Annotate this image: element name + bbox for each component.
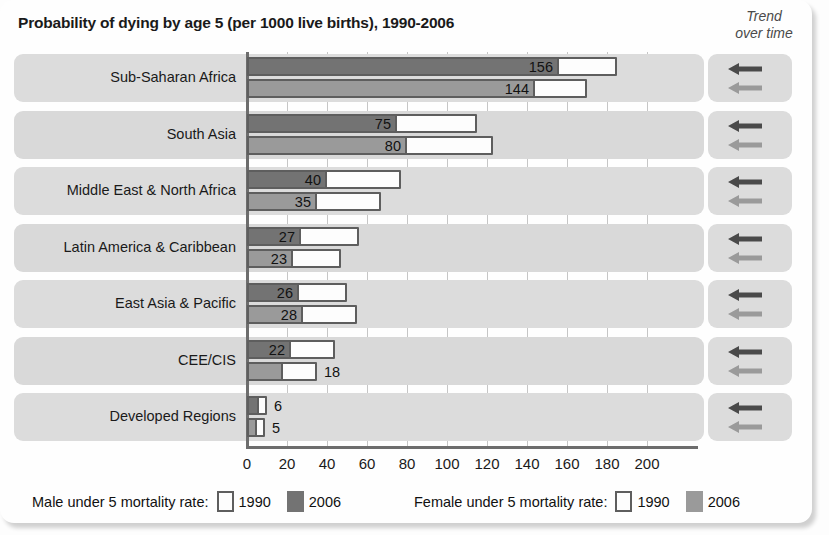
trend-row-band xyxy=(708,54,792,102)
bar-group-female xyxy=(247,136,493,155)
x-tick-label: 140 xyxy=(507,455,547,472)
bar-female-2006 xyxy=(247,362,283,381)
legend-female-1990-year: 1990 xyxy=(637,494,669,510)
legend-swatch-female-2006 xyxy=(686,491,703,512)
chart-title: Probability of dying by age 5 (per 1000 … xyxy=(18,14,454,32)
x-axis-line xyxy=(246,446,698,449)
legend-swatch-male-2006 xyxy=(287,491,304,512)
bar-value-male: 27 xyxy=(279,230,295,245)
trend-row-band xyxy=(708,393,792,441)
x-tick-label: 80 xyxy=(387,455,427,472)
trend-header-line2: over time xyxy=(718,25,810,42)
bar-group-male xyxy=(247,340,335,359)
legend-male-1990-year: 1990 xyxy=(239,494,271,510)
bar-group-male xyxy=(247,227,359,246)
row-label-middle-east-north-africa: Middle East & North Africa xyxy=(14,182,236,198)
bar-value-male: 6 xyxy=(274,399,282,414)
bar-group-male xyxy=(247,170,401,189)
x-tick-label: 60 xyxy=(347,455,387,472)
bar-value-male: 75 xyxy=(375,117,391,132)
bar-group-male xyxy=(247,114,477,133)
bar-group-female xyxy=(247,192,381,211)
bar-value-female: 35 xyxy=(295,195,311,210)
row-label-sub-saharan-africa: Sub-Saharan Africa xyxy=(14,69,236,85)
bar-value-male: 22 xyxy=(269,343,285,358)
bar-group-female xyxy=(247,362,317,381)
row-label-cee-cis: CEE/CIS xyxy=(14,352,236,368)
trend-row-band xyxy=(708,337,792,385)
bar-group-female xyxy=(247,418,265,437)
bar-group-female xyxy=(247,305,357,324)
bar-value-female: 5 xyxy=(272,421,280,436)
legend-male-2006-year: 2006 xyxy=(309,494,341,510)
x-tick-label: 160 xyxy=(547,455,587,472)
x-tick-label: 200 xyxy=(627,455,667,472)
trend-arrow-left-female-icon xyxy=(728,195,762,207)
trend-over-time-header: Trend over time xyxy=(718,8,810,42)
legend-female-label: Female under 5 mortality rate: xyxy=(414,494,607,510)
legend-female-group: Female under 5 mortality rate: 1990 2006 xyxy=(414,491,756,512)
bar-group-female xyxy=(247,249,341,268)
x-tick-label: 40 xyxy=(307,455,347,472)
bar-group-female xyxy=(247,79,587,98)
bar-group-male xyxy=(247,283,347,302)
x-tick-label: 0 xyxy=(227,455,267,472)
trend-row-band xyxy=(708,167,792,215)
trend-arrow-left-male-icon xyxy=(728,402,762,414)
bar-group-male xyxy=(247,57,617,76)
bar-value-female: 80 xyxy=(385,139,401,154)
x-tick-label: 120 xyxy=(467,455,507,472)
bar-value-male: 156 xyxy=(529,60,553,75)
trend-arrow-left-male-icon xyxy=(728,63,762,75)
row-label-developed-regions: Developed Regions xyxy=(14,408,236,424)
legend-male-group: Male under 5 mortality rate: 1990 2006 xyxy=(32,491,357,512)
bar-female-2006 xyxy=(247,79,535,98)
legend-swatch-female-1990 xyxy=(615,491,632,512)
bar-female-2006 xyxy=(247,136,407,155)
x-tick-label: 100 xyxy=(427,455,467,472)
bar-value-female: 23 xyxy=(271,252,287,267)
trend-arrow-left-female-icon xyxy=(728,82,762,94)
trend-arrow-left-male-icon xyxy=(728,176,762,188)
trend-arrow-left-female-icon xyxy=(728,252,762,264)
trend-arrow-left-male-icon xyxy=(728,233,762,245)
trend-arrow-left-male-icon xyxy=(728,289,762,301)
trend-row-band xyxy=(708,111,792,159)
trend-arrow-left-female-icon xyxy=(728,365,762,377)
trend-arrow-left-female-icon xyxy=(728,139,762,151)
trend-row-band xyxy=(708,224,792,272)
bar-male-2006 xyxy=(247,57,559,76)
bar-value-male: 26 xyxy=(277,286,293,301)
bar-group-male xyxy=(247,396,267,415)
bar-female-2006 xyxy=(247,418,257,437)
bar-value-female: 28 xyxy=(281,308,297,323)
trend-arrow-left-male-icon xyxy=(728,346,762,358)
trend-row-band xyxy=(708,280,792,328)
row-label-east-asia-pacific: East Asia & Pacific xyxy=(14,295,236,311)
legend-female-2006-year: 2006 xyxy=(708,494,740,510)
bar-value-male: 40 xyxy=(305,173,321,188)
row-label-south-asia: South Asia xyxy=(14,126,236,142)
plot-area: 1561447580403527232628221865 Sub-Saharan… xyxy=(0,50,812,450)
trend-arrow-left-male-icon xyxy=(728,120,762,132)
figure-root: Probability of dying by age 5 (per 1000 … xyxy=(0,0,829,535)
x-tick-label: 20 xyxy=(267,455,307,472)
legend-male-label: Male under 5 mortality rate: xyxy=(32,494,209,510)
row-label-latin-america-caribbean: Latin America & Caribbean xyxy=(14,239,236,255)
trend-arrow-left-female-icon xyxy=(728,308,762,320)
trend-header-line1: Trend xyxy=(718,8,810,25)
bar-male-2006 xyxy=(247,396,259,415)
legend-swatch-male-1990 xyxy=(217,491,234,512)
chart-legend: Male under 5 mortality rate: 1990 2006 F… xyxy=(14,487,798,521)
x-tick-label: 180 xyxy=(587,455,627,472)
bar-value-female: 144 xyxy=(505,82,529,97)
bar-value-female: 18 xyxy=(324,365,340,380)
trend-arrow-left-female-icon xyxy=(728,421,762,433)
